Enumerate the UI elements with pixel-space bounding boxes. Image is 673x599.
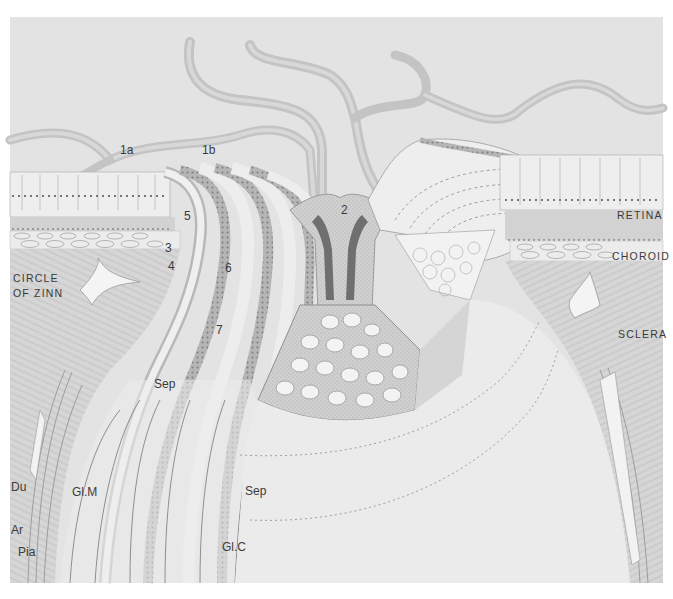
label-5: 5: [184, 210, 191, 222]
label-du: Du: [11, 481, 26, 493]
label-7: 7: [216, 324, 223, 336]
right-retina: [500, 155, 663, 261]
optic-nerve-illustration: [0, 0, 673, 599]
label-4: 4: [168, 260, 175, 272]
label-retina: RETINA: [617, 209, 663, 221]
left-retina: [10, 172, 180, 249]
label-gl-c: Gl.C: [222, 541, 246, 553]
label-1b: 1b: [202, 144, 215, 156]
label-sclera: SCLERA: [618, 328, 667, 340]
label-choroid: CHOROID: [612, 250, 670, 262]
label-sep-upper: Sep: [154, 378, 175, 390]
label-ar: Ar: [11, 524, 23, 536]
label-circle-of-zinn-1: CIRCLE: [13, 272, 59, 284]
label-circle-of-zinn-2: OF ZINN: [13, 287, 63, 299]
label-pia: Pia: [18, 546, 35, 558]
label-6: 6: [225, 262, 232, 274]
label-gl-m: Gl.M: [72, 486, 97, 498]
label-3: 3: [165, 242, 172, 254]
label-2: 2: [341, 204, 348, 216]
label-sep-lower: Sep: [245, 485, 266, 497]
label-1a: 1a: [120, 144, 133, 156]
